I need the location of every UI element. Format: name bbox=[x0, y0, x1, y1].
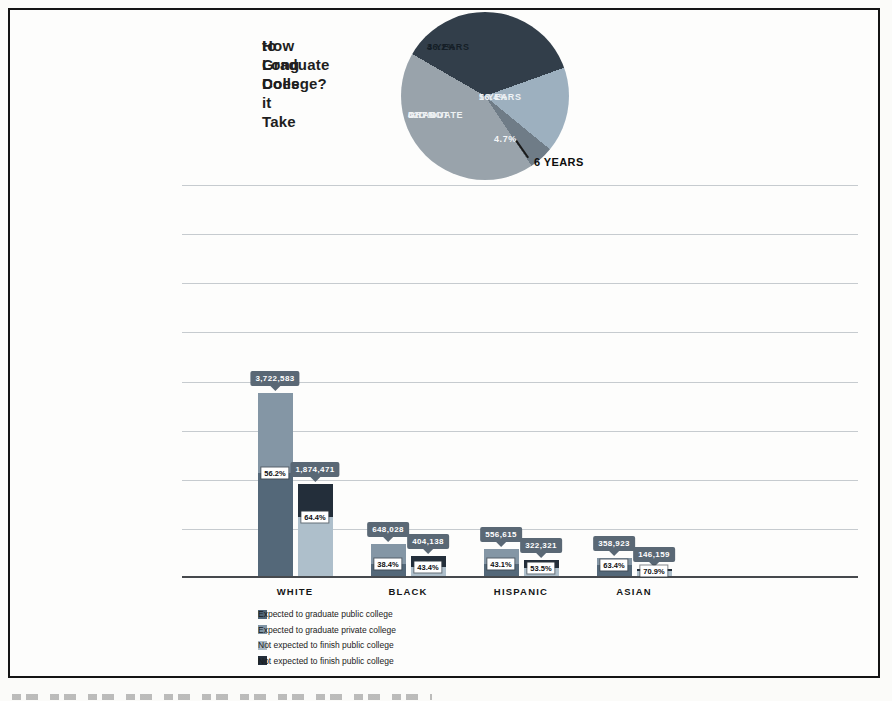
page: How Long Does it Take to Graduate Colleg… bbox=[0, 0, 892, 701]
bar-graduate-pct-label: 53.5% bbox=[527, 562, 554, 573]
bar-white-private bbox=[298, 484, 333, 576]
bar-total-callout: 556,615 bbox=[480, 527, 522, 542]
legend-label: Expected to graduate private college bbox=[258, 625, 396, 635]
bar-chart: 3,722,58356.2%1,874,47164.4%WHITE648,028… bbox=[182, 185, 858, 578]
legend-label: Not expected to finish public college bbox=[258, 656, 394, 666]
category-label-asian: ASIAN bbox=[616, 586, 652, 597]
callout-pointer bbox=[609, 551, 619, 556]
bar-graduate-pct-label: 63.4% bbox=[600, 559, 627, 570]
bar-graduate-pct-label: 56.2% bbox=[261, 468, 288, 479]
callout-pointer bbox=[496, 542, 506, 547]
segment-not-expected bbox=[258, 393, 293, 473]
pie-outside-label: 6 YEARS bbox=[534, 156, 584, 168]
legend-label: Not expected to finish public college bbox=[258, 640, 394, 650]
bar-total-callout: 146,159 bbox=[633, 547, 675, 562]
callout-pointer bbox=[310, 477, 320, 482]
bar-total-callout: 404,138 bbox=[407, 534, 449, 549]
bar-graduate-pct-label: 70.9% bbox=[640, 565, 667, 576]
legend: Expected to graduate public collegeExpec… bbox=[258, 607, 558, 673]
callout-pointer bbox=[383, 537, 393, 542]
legend-label: Expected to graduate public college bbox=[258, 609, 393, 619]
bar-total-callout: 3,722,583 bbox=[250, 371, 299, 386]
bar-total-callout: 1,874,471 bbox=[290, 462, 339, 477]
cropped-caption bbox=[12, 694, 432, 700]
callout-pointer bbox=[270, 386, 280, 391]
bar-white-public bbox=[258, 393, 293, 576]
bar-graduate-pct-label: 38.4% bbox=[374, 558, 401, 569]
bar-graduate-pct-label: 43.1% bbox=[487, 559, 514, 570]
bar-total-callout: 358,923 bbox=[593, 536, 635, 551]
x-axis-baseline bbox=[182, 576, 858, 578]
bar-graduate-pct-label: 64.4% bbox=[301, 511, 328, 522]
gridline bbox=[182, 234, 858, 235]
gridline bbox=[182, 185, 858, 186]
callout-pointer bbox=[423, 549, 433, 554]
gridline bbox=[182, 283, 858, 284]
bar-graduate-pct-label: 43.4% bbox=[414, 562, 441, 573]
segment-expected-graduate bbox=[258, 473, 293, 576]
category-label-white: WHITE bbox=[277, 586, 314, 597]
bar-total-callout: 648,028 bbox=[367, 522, 409, 537]
category-label-hispanic: HISPANIC bbox=[494, 586, 548, 597]
category-label-black: BLACK bbox=[388, 586, 427, 597]
segment-expected-graduate bbox=[298, 517, 333, 576]
callout-pointer bbox=[536, 553, 546, 558]
bar-total-callout: 322,321 bbox=[520, 538, 562, 553]
chart-title-line2: to Graduate College? bbox=[262, 36, 329, 93]
figure-frame: How Long Does it Take to Graduate Colleg… bbox=[8, 8, 880, 678]
gridline bbox=[182, 332, 858, 333]
